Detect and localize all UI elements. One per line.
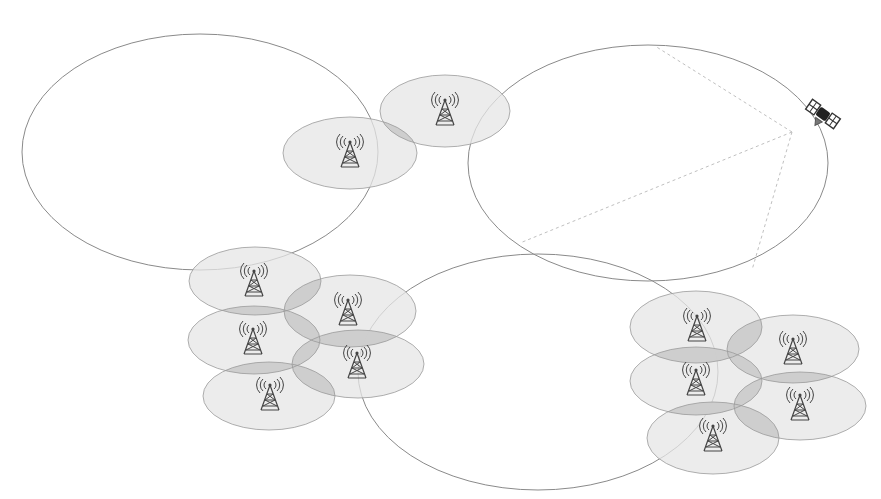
small-cells	[188, 75, 866, 474]
beam-line-2	[752, 132, 792, 270]
satellite-beams	[520, 46, 792, 270]
diagram-canvas	[0, 0, 881, 499]
network-coverage-diagram	[0, 0, 881, 499]
beam-line-1	[520, 132, 792, 243]
macro-right	[468, 45, 828, 281]
beam-line-0	[655, 46, 792, 132]
